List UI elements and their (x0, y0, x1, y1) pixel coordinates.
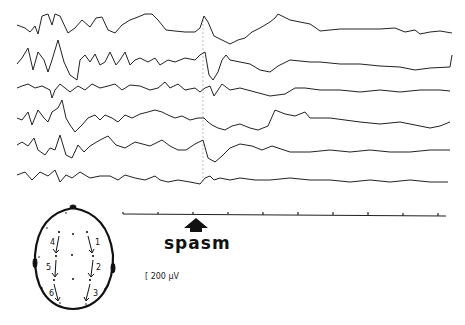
nose-icon (70, 205, 76, 209)
channel-6-label: 6 (49, 289, 54, 298)
eeg-trace-3 (17, 82, 450, 98)
eeg-trace-4 (17, 100, 450, 132)
time-axis (123, 212, 446, 216)
eeg-trace-1 (17, 14, 452, 44)
derivation-arrows (52, 236, 94, 301)
spasm-arrow-icon (184, 218, 208, 232)
channel-labels: 4 1 5 2 6 3 (46, 238, 101, 298)
amplitude-scale-label: [ 200 µV (145, 272, 179, 281)
channel-2-label: 2 (96, 263, 101, 272)
channel-1-label: 1 (95, 238, 100, 247)
eeg-figure: 4 1 5 2 6 3 spasm [ 200 µV (0, 0, 465, 325)
spasm-label: spasm (164, 233, 231, 253)
channel-3-label: 3 (93, 289, 98, 298)
head-montage-diagram: 4 1 5 2 6 3 (33, 205, 115, 309)
eeg-trace-5 (17, 135, 450, 162)
channel-4-label: 4 (50, 238, 55, 247)
left-ear-icon (33, 258, 37, 268)
eeg-trace-2 (17, 40, 452, 80)
eeg-trace-6 (17, 170, 448, 184)
right-ear-icon (111, 263, 115, 273)
eeg-traces: 4 1 5 2 6 3 (0, 0, 465, 325)
channel-5-label: 5 (46, 263, 51, 272)
